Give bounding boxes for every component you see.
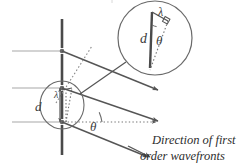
label-angle-magnified: θ — [156, 34, 162, 47]
magnifier-leader-line — [80, 62, 126, 94]
path-difference-hyp-small — [66, 88, 72, 122]
caption-line-1: Direction of first — [152, 133, 236, 147]
detail-circle-magnified — [118, 1, 192, 75]
angle-theta-arc-magnified — [152, 25, 157, 27]
label-slit-spacing-small: d — [35, 100, 42, 113]
label-wavelength-small: λ — [54, 90, 58, 100]
caption-line-2: order wavefronts — [140, 149, 236, 165]
diffracted-ray-3 — [62, 122, 148, 157]
label-wavelength-magnified: λ — [158, 6, 163, 18]
diffracted-ray-2 — [62, 88, 158, 121]
caption-direction-of-first-order-wavefronts: Direction of first order wavefronts — [152, 133, 236, 164]
spacing-d-line-magnified — [150, 12, 152, 68]
label-slit-spacing-magnified: d — [140, 32, 147, 46]
label-angle-main: θ — [90, 120, 96, 133]
angle-theta-arc — [99, 112, 102, 122]
diffracted-rays — [62, 51, 158, 157]
figure-canvas: d λ d θ λ θ Direction of first order wav… — [0, 0, 248, 168]
